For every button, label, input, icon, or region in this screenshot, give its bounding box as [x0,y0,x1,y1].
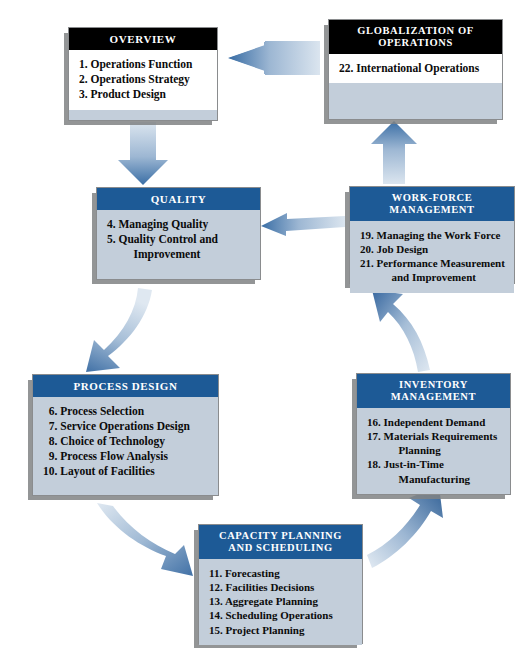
list-item: 6. Process Selection [43,404,210,419]
box-globalization[interactable]: GLOBALIZATION OF OPERATIONS 22. Internat… [328,19,503,120]
arrow-inventory-to-workforce [372,290,430,372]
box-workforce-management-body: 19. Managing the Work Force 20. Job Desi… [350,221,514,293]
list-item: 3. Product Design [79,87,209,102]
box-inventory-management-body: 16. Independent Demand 17. Materials Req… [357,408,510,494]
box-inventory-management[interactable]: INVENTORY MANAGEMENT 16. Independent Dem… [356,373,511,495]
list-item: 15. Project Planning [209,623,354,637]
list-item: 4. Managing Quality [107,217,252,232]
box-process-design-body: 6. Process Selection 7. Service Operatio… [33,397,218,487]
list-item: 13. Aggregate Planning [209,594,354,608]
list-item: 9. Process Flow Analysis [43,449,210,464]
arrow-globalization-to-overview [228,41,320,75]
box-quality[interactable]: QUALITY 4. Managing Quality 5. Quality C… [96,187,261,280]
box-overview-title: OVERVIEW [69,28,217,50]
box-capacity-planning-title: CAPACITY PLANNING AND SCHEDULING [199,525,362,559]
list-item: 18. Just-in-Time Manufacturing [367,457,502,486]
title-line: GLOBALIZATION OF [333,25,498,37]
arrow-workforce-to-quality [261,213,345,236]
list-item: 21. Performance Measurement and Improvem… [360,256,506,285]
box-workforce-management-title: WORK-FORCE MANAGEMENT [350,187,514,221]
title-line: MANAGEMENT [354,204,510,216]
list-item: 10. Layout of Facilities [43,464,210,479]
list-item: 20. Job Design [360,242,506,256]
list-item: 22. International Operations [339,61,494,76]
box-capacity-planning[interactable]: CAPACITY PLANNING AND SCHEDULING 11. For… [198,524,363,644]
box-overview[interactable]: OVERVIEW 1. Operations Function 2. Opera… [68,27,218,121]
title-line: OPERATIONS [333,37,498,49]
list-item: 1. Operations Function [79,57,209,72]
box-workforce-management[interactable]: WORK-FORCE MANAGEMENT 19. Managing the W… [349,186,515,284]
title-line: AND SCHEDULING [203,542,358,554]
box-quality-body: 4. Managing Quality 5. Quality Control a… [97,210,260,270]
box-overview-body: 1. Operations Function 2. Operations Str… [69,50,217,110]
box-globalization-title: GLOBALIZATION OF OPERATIONS [329,20,502,54]
list-item: 8. Choice of Technology [43,434,210,449]
box-capacity-planning-body: 11. Forecasting 12. Facilities Decisions… [199,559,362,645]
box-globalization-body: 22. International Operations [329,54,502,84]
list-item: 19. Managing the Work Force [360,228,506,242]
list-item: 2. Operations Strategy [79,72,209,87]
box-process-design[interactable]: PROCESS DESIGN 6. Process Selection 7. S… [32,374,219,496]
title-line: CAPACITY PLANNING [203,530,358,542]
list-item: 11. Forecasting [209,566,354,580]
arrow-capacity-to-inventory [367,486,443,568]
arrow-quality-to-process-design [86,288,152,372]
box-quality-title: QUALITY [97,188,260,210]
arrow-process-design-to-capacity [97,503,193,576]
title-line: WORK-FORCE [354,192,510,204]
arrow-overview-to-quality [118,122,168,185]
list-item: 5. Quality Control and Improvement [107,232,252,262]
list-item: 16. Independent Demand [367,415,502,429]
box-process-design-title: PROCESS DESIGN [33,375,218,397]
list-item: 7. Service Operations Design [43,419,210,434]
arrow-workforce-to-globalization [371,121,417,184]
box-inventory-management-title: INVENTORY MANAGEMENT [357,374,510,408]
diagram-canvas: OVERVIEW 1. Operations Function 2. Opera… [0,0,525,659]
list-item: 12. Facilities Decisions [209,580,354,594]
list-item: 17. Materials Requirements Planning [367,429,502,458]
list-item: 14. Scheduling Operations [209,608,354,622]
